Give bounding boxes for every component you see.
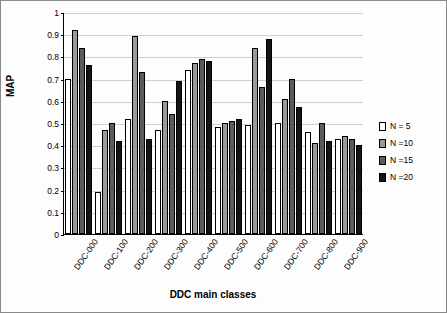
x-axis-title: DDC main classes [63,289,363,300]
bar [176,81,182,234]
bar-group [94,13,124,234]
bar-group [303,13,333,234]
legend-label: N =15 [390,155,413,165]
y-tick-label: 0.7 [47,75,59,85]
bar [252,48,258,234]
y-tick-label: 0 [54,230,59,240]
y-tick-label: 0.9 [47,30,59,40]
bar-group [124,13,154,234]
bar [79,48,85,234]
bar [319,123,325,234]
bar [95,192,101,234]
legend-item: N =20 [379,172,413,182]
legend-label: N = 5 [390,121,411,131]
bar [312,143,318,234]
chart-figure: MAP 00.10.20.30.40.50.60.70.80.91 DDC-00… [0,0,447,313]
y-tick-label: 1 [54,8,59,18]
bar-group [154,13,184,234]
bar-group [64,13,94,234]
bar [356,145,362,234]
y-tick-label: 0.2 [47,186,59,196]
legend-swatch [379,156,386,165]
x-tick-label: DDC-200 [132,237,161,272]
x-tick-labels: DDC-000DDC-100DDC-200DDC-300DDC-400DDC-5… [63,237,363,297]
bar [236,119,242,234]
legend-label: N =20 [390,172,413,182]
bar [155,130,161,234]
bar [86,65,92,234]
bar [305,132,311,234]
bar [169,114,175,234]
bar [146,139,152,234]
bar [185,70,191,234]
x-tick-label: DDC-600 [252,237,281,272]
y-tick-label: 0.1 [47,208,59,218]
y-tick-label: 0.6 [47,97,59,107]
bar-groups [64,13,363,234]
y-tick-label: 0.3 [47,163,59,173]
x-tick-label: DDC-300 [162,237,191,272]
x-tick-label: DDC-000 [72,237,101,272]
bar [259,87,265,234]
bar [102,130,108,234]
y-tick-label: 0.5 [47,119,59,129]
legend-item: N =15 [379,155,413,165]
bar [199,59,205,234]
y-axis-title: MAP [5,75,16,97]
bar [229,121,235,234]
y-tick-label: 0.4 [47,141,59,151]
bar-group [184,13,214,234]
legend: N = 5N =10N =15N =20 [379,121,413,189]
plot-area: 00.10.20.30.40.50.60.70.80.91 [63,13,363,235]
bar [266,39,272,234]
x-tick-label: DDC-900 [342,237,371,272]
bar [245,125,251,234]
x-tick-label: DDC-100 [102,237,131,272]
legend-label: N =10 [390,138,413,148]
bar [132,36,138,234]
bar-group [273,13,303,234]
x-tick-label: DDC-800 [312,237,341,272]
legend-item: N = 5 [379,121,413,131]
bar [222,123,228,234]
bar [326,141,332,234]
bar [72,30,78,234]
bar-group [243,13,273,234]
bar [65,79,71,234]
bar-group [214,13,244,234]
legend-item: N =10 [379,138,413,148]
bar [116,141,122,234]
bar [192,63,198,234]
y-tick-mark [61,235,64,236]
bar [139,72,145,234]
bar [215,127,221,234]
bar [335,139,341,234]
bar [275,123,281,234]
x-tick-label: DDC-500 [222,237,251,272]
bar-group [333,13,363,234]
legend-swatch [379,173,386,182]
bar [206,61,212,234]
bar [109,123,115,234]
x-tick-label: DDC-400 [192,237,221,272]
bar [296,107,302,234]
bar [342,136,348,234]
bar [162,101,168,234]
bar [125,119,131,234]
bar [289,79,295,234]
bar [282,99,288,234]
gridline [64,235,363,236]
x-tick-label: DDC-700 [282,237,311,272]
legend-swatch [379,139,386,148]
y-tick-label: 0.8 [47,52,59,62]
bar [349,139,355,234]
legend-swatch [379,122,386,131]
